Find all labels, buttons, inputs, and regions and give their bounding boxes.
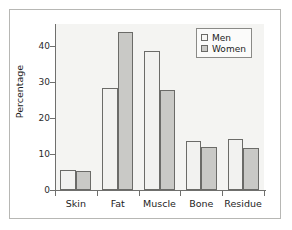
- bar-muscle-men: [144, 51, 160, 190]
- y-tick-label: 10: [24, 150, 50, 159]
- y-axis-line: [55, 24, 56, 191]
- bar-skin-women: [76, 171, 92, 190]
- y-tick-mark: [50, 46, 55, 47]
- y-tick-label-wrap: 10: [0, 150, 50, 159]
- y-tick-mark: [50, 154, 55, 155]
- x-tick-label-muscle: Muscle: [139, 198, 181, 209]
- x-tick-label-skin: Skin: [55, 198, 97, 209]
- x-tick-mark: [180, 191, 181, 196]
- bar-residue-women: [243, 148, 259, 190]
- x-tick-mark: [55, 191, 56, 196]
- y-tick-mark: [50, 82, 55, 83]
- x-tick-label-residue: Residue: [222, 198, 264, 209]
- x-tick-mark: [222, 191, 223, 196]
- figure: 010203040 SkinFatMuscleBoneResidue Perce…: [0, 0, 292, 230]
- x-tick-label-fat: Fat: [97, 198, 139, 209]
- y-tick-label-wrap: 20: [0, 114, 50, 123]
- y-tick-label-wrap: 30: [0, 78, 50, 87]
- y-tick-label: 30: [24, 78, 50, 87]
- x-tick-mark: [97, 191, 98, 196]
- x-tick-mark: [139, 191, 140, 196]
- bar-skin-men: [60, 170, 76, 190]
- legend-swatch-men-icon: [201, 34, 208, 41]
- legend-item-men: Men: [201, 32, 246, 43]
- x-tick-label-bone: Bone: [180, 198, 222, 209]
- legend-label-men: Men: [212, 33, 231, 43]
- bar-residue-men: [228, 139, 244, 190]
- bar-bone-men: [186, 141, 202, 190]
- x-tick-mark: [264, 191, 265, 196]
- legend-swatch-women-icon: [201, 45, 208, 52]
- bar-muscle-women: [160, 90, 176, 190]
- y-tick-label-wrap: 40: [0, 42, 50, 51]
- y-tick-mark: [50, 118, 55, 119]
- x-axis-line: [55, 190, 266, 191]
- bar-fat-women: [118, 32, 134, 190]
- legend-item-women: Women: [201, 43, 246, 54]
- bar-bone-women: [201, 147, 217, 190]
- y-tick-label: 20: [24, 114, 50, 123]
- legend-label-women: Women: [212, 44, 246, 54]
- y-axis-title: Percentage: [14, 52, 25, 132]
- y-tick-label: 0: [24, 186, 50, 195]
- y-tick-label: 40: [24, 42, 50, 51]
- y-tick-label-wrap: 0: [0, 186, 50, 195]
- legend: Men Women: [196, 28, 252, 58]
- bar-fat-men: [102, 88, 118, 190]
